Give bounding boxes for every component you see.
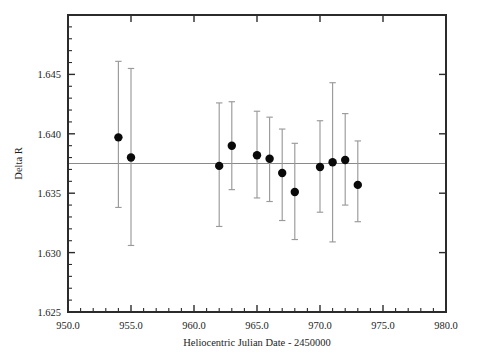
- data-point: [328, 158, 336, 166]
- plot-background: [0, 0, 477, 359]
- data-point: [228, 141, 236, 149]
- data-point: [114, 133, 122, 141]
- x-tick-label: 965.0: [245, 320, 269, 331]
- y-tick-label: 1.635: [37, 188, 61, 199]
- data-point: [278, 169, 286, 177]
- scatter-plot-errorbars: 950.0955.0960.0965.0970.0975.0980.0 1.62…: [0, 0, 477, 359]
- x-axis-title: Heliocentric Julian Date - 2450000: [183, 337, 331, 348]
- data-point: [215, 162, 223, 170]
- y-tick-label: 1.625: [37, 307, 61, 318]
- x-tick-label: 960.0: [182, 320, 206, 331]
- data-point: [341, 156, 349, 164]
- x-tick-label: 955.0: [119, 320, 143, 331]
- data-point: [253, 151, 261, 159]
- y-tick-label: 1.640: [37, 129, 61, 140]
- data-point: [354, 181, 362, 189]
- x-tick-label: 970.0: [308, 320, 332, 331]
- y-tick-label: 1.630: [37, 248, 61, 259]
- x-tick-label: 980.0: [434, 320, 458, 331]
- y-tick-label: 1.645: [37, 69, 61, 80]
- data-point: [291, 188, 299, 196]
- data-point: [127, 153, 135, 161]
- figure-container: 950.0955.0960.0965.0970.0975.0980.0 1.62…: [0, 0, 477, 359]
- x-tick-label: 975.0: [371, 320, 395, 331]
- data-point: [265, 155, 273, 163]
- data-point: [316, 163, 324, 171]
- x-tick-label: 950.0: [56, 320, 80, 331]
- y-axis-title: Delta R: [13, 147, 24, 179]
